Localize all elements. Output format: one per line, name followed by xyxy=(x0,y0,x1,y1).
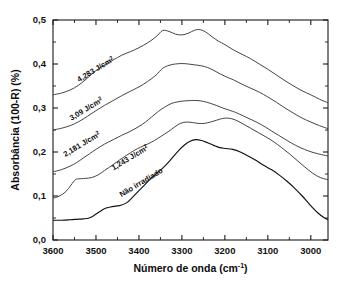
x-tick-label: 3600 xyxy=(42,245,63,256)
series-group xyxy=(53,30,328,221)
curve-label: 2,181 J/cm2 xyxy=(61,129,101,159)
curve-label: Não irradiado xyxy=(118,166,165,199)
y-tick-label: 0,0 xyxy=(33,234,46,245)
x-tick-label: 3300 xyxy=(171,245,192,256)
x-tick-label: 3500 xyxy=(85,245,106,256)
x-tick-label: 3200 xyxy=(214,245,235,256)
x-tick-label: 3400 xyxy=(128,245,149,256)
y-tick-label: 0,5 xyxy=(33,14,47,25)
y-tick-label: 0,1 xyxy=(33,190,47,201)
y-axis-title: Absorbância (100-R) (%) xyxy=(9,69,21,190)
x-tick-label: 3100 xyxy=(257,245,278,256)
ftir-spectra-chart: 36003500340033003200310030000,00,10,20,3… xyxy=(0,0,350,288)
curve-labels-group: 4,283 J/cm23,09 J/cm22,181 J/cm21,243 J/… xyxy=(61,54,164,199)
y-tick-label: 0,2 xyxy=(33,146,46,157)
curve-label-superscript: 2 xyxy=(97,95,103,102)
x-axis-title: Número de onda (cm-1) xyxy=(133,262,247,274)
y-tick-label: 0,4 xyxy=(33,58,47,69)
chart-canvas: 36003500340033003200310030000,00,10,20,3… xyxy=(0,0,350,288)
curve-label: 4,283 J/cm2 xyxy=(75,54,115,84)
x-tick-label: 3000 xyxy=(300,245,321,256)
curve-label: 1,243 J/cm2 xyxy=(110,143,150,173)
x-axis-title-tail: ) xyxy=(244,262,248,274)
y-tick-label: 0,3 xyxy=(33,102,46,113)
curve-label-superscript: 2 xyxy=(94,129,100,136)
